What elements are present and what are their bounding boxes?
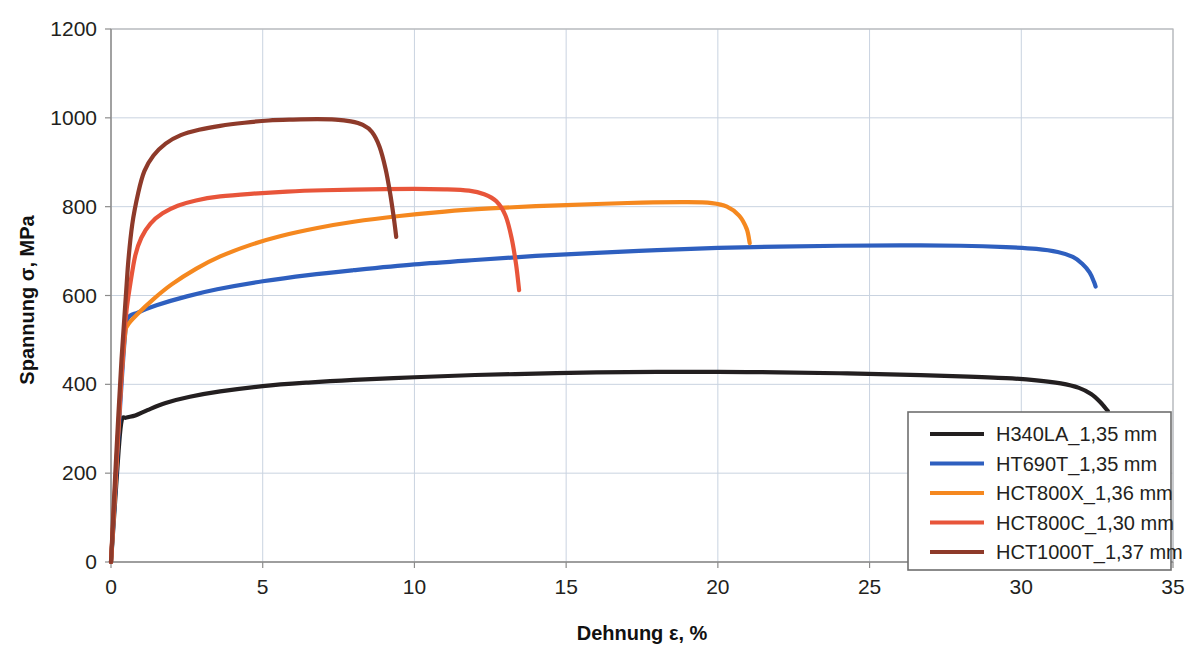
chart-svg: 020040060080010001200 05101520253035 Spa…: [0, 0, 1193, 662]
x-tick-label: 20: [706, 575, 729, 598]
x-tick-label: 15: [554, 575, 577, 598]
legend[interactable]: H340LA_1,35 mmHT690T_1,35 mmHCT800X_1,36…: [908, 412, 1183, 570]
legend-label: H340LA_1,35 mm: [996, 423, 1157, 446]
stress-strain-chart: 020040060080010001200 05101520253035 Spa…: [0, 0, 1193, 662]
y-tick-label: 1000: [50, 106, 97, 129]
x-tick-label: 35: [1161, 575, 1184, 598]
y-tick-label: 400: [62, 372, 97, 395]
x-tick-label: 10: [403, 575, 426, 598]
x-tick-label: 25: [858, 575, 881, 598]
y-tick-label: 0: [85, 550, 97, 573]
y-tick-label: 200: [62, 461, 97, 484]
x-tick-label: 0: [105, 575, 117, 598]
legend-label: HCT800C_1,30 mm: [996, 512, 1174, 535]
legend-label: HCT800X_1,36 mm: [996, 482, 1173, 505]
y-tick-label: 800: [62, 195, 97, 218]
legend-label: HCT1000T_1,37 mm: [996, 541, 1183, 564]
y-axis-title: Spannung σ, MPa: [16, 215, 38, 385]
legend-label: HT690T_1,35 mm: [996, 453, 1157, 476]
x-tick-label: 30: [1010, 575, 1033, 598]
y-tick-label: 1200: [50, 17, 97, 40]
x-tick-label: 5: [257, 575, 269, 598]
x-axis-title: Dehnung ε, %: [577, 622, 708, 644]
y-tick-label: 600: [62, 284, 97, 307]
